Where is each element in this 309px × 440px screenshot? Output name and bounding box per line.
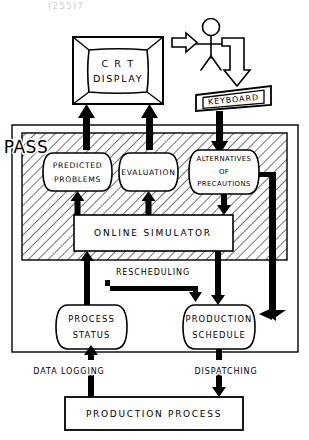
- rescheduling-path: RESCHEDULING: [105, 268, 202, 303]
- diagram-canvas: (255)7 C R T DISPLAY: [0, 0, 309, 440]
- node-evaluation-line1: EVALUATION: [121, 168, 175, 177]
- node-predicted-problems-line1: PREDICTED: [53, 161, 103, 170]
- node-predicted-problems: PREDICTED PROBLEMS: [43, 153, 112, 191]
- arrow-input-icon: [222, 38, 250, 86]
- dispatching-label: DISPATCHING: [194, 367, 257, 376]
- node-alternatives-line2: OF: [219, 168, 229, 176]
- operator-leg-right-icon: [211, 56, 221, 70]
- pass-label: PASS: [4, 137, 48, 157]
- store-process-status-line2: STATUS: [73, 330, 111, 340]
- store-production-schedule-line1: PRODUCTION: [186, 314, 253, 324]
- node-predicted-problems-line2: PROBLEMS: [54, 175, 101, 184]
- arrow-status-to-simulator: [80, 251, 94, 305]
- node-evaluation: EVALUATION: [119, 153, 178, 191]
- diagram-root: (255)7 C R T DISPLAY: [0, 0, 309, 440]
- store-process-status-line1: PROCESS: [68, 314, 115, 324]
- edge-dispatching: DISPATCHING: [194, 349, 257, 397]
- node-alternatives-of-precautions: ALTERNATIVES OF PRECAUTIONS: [189, 150, 259, 194]
- online-simulator: ONLINE SIMULATOR: [74, 215, 233, 251]
- node-alternatives-line1: ALTERNATIVES: [197, 155, 252, 163]
- production-process-label: PRODUCTION PROCESS: [86, 409, 222, 419]
- store-production-schedule-line2: SCHEDULE: [192, 330, 246, 340]
- store-process-status-shape: [56, 305, 127, 349]
- crt-label-line2: DISPLAY: [93, 73, 143, 84]
- top-artifact-text: (255)7: [48, 1, 84, 11]
- rescheduling-arrow: [105, 280, 202, 302]
- online-simulator-label: ONLINE SIMULATOR: [94, 228, 212, 238]
- keyboard: KEYBOARD: [196, 86, 271, 111]
- node-alternatives-line3: PRECAUTIONS: [197, 180, 250, 188]
- store-production-schedule: PRODUCTION SCHEDULE: [183, 305, 255, 349]
- crt-screen: [88, 49, 149, 94]
- production-process: PRODUCTION PROCESS: [65, 397, 243, 430]
- store-production-schedule-shape: [183, 305, 255, 349]
- data-logging-label: DATA LOGGING: [33, 367, 104, 376]
- store-process-status: PROCESS STATUS: [56, 305, 127, 349]
- operator-head-icon: [203, 19, 220, 36]
- operator-leg-left-icon: [201, 56, 211, 70]
- crt-display: C R T DISPLAY: [73, 37, 163, 104]
- rescheduling-label: RESCHEDULING: [116, 268, 190, 277]
- arrow-view-icon: [172, 33, 197, 52]
- edge-data-logging: DATA LOGGING: [33, 345, 104, 397]
- feedback-loop-top: [259, 172, 274, 177]
- feedback-loop-vertical: [269, 172, 274, 314]
- crt-label-line1: C R T: [101, 58, 134, 69]
- node-predicted-problems-shape: [43, 153, 112, 191]
